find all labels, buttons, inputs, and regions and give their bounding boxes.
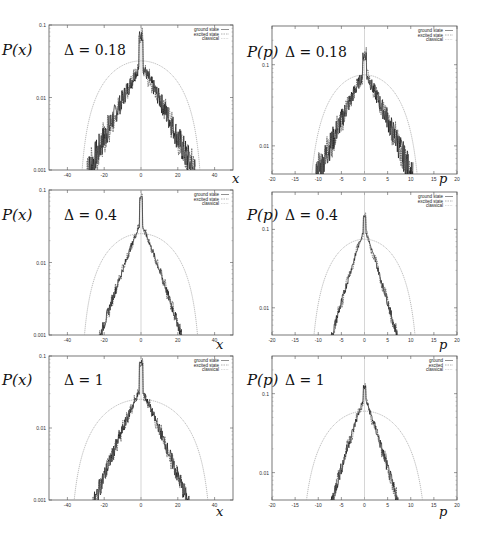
y-tick-label: 0.01 — [259, 470, 269, 476]
figure: -40-20020400.0010.010.1P(x)Δ = 0.18xgrou… — [0, 0, 480, 539]
legend-label: classical — [426, 367, 443, 372]
legend-label: classical — [202, 201, 219, 206]
x-tick-label: -5 — [339, 502, 344, 508]
x-tick-label: 10 — [408, 337, 414, 343]
x-axis-label: x — [216, 504, 224, 519]
x-tick-label: 20 — [454, 502, 460, 508]
y-tick-label: 0.1 — [39, 353, 46, 359]
y-axis-label: P(p) — [246, 206, 279, 224]
y-axis-label: P(p) — [246, 371, 279, 389]
y-tick-label: 0.01 — [36, 95, 46, 101]
y-tick-label: 0.001 — [33, 332, 46, 338]
delta-annotation: Δ = 0.4 — [285, 207, 338, 223]
y-tick-label: 0.01 — [36, 260, 46, 266]
x-tick-label: 0 — [140, 502, 143, 508]
delta-annotation: Δ = 1 — [285, 372, 325, 388]
legend-label: classical — [202, 36, 219, 41]
y-tick-label: 0.001 — [33, 497, 46, 503]
x-tick-label: -5 — [339, 337, 344, 343]
x-tick-label: -15 — [292, 337, 299, 343]
delta-annotation: Δ = 0.18 — [285, 44, 347, 60]
y-tick-label: 0.1 — [262, 391, 269, 397]
y-tick-label: 0.1 — [262, 226, 269, 232]
x-axis-label: p — [439, 171, 448, 186]
x-tick-label: 20 — [175, 337, 181, 343]
legend-label: classical — [426, 203, 443, 208]
x-tick-label: 20 — [175, 502, 181, 508]
y-tick-label: 0.001 — [33, 167, 46, 173]
delta-annotation: Δ = 0.4 — [64, 207, 117, 223]
y-tick-label: 0.01 — [36, 425, 46, 431]
x-tick-label: -40 — [64, 502, 71, 508]
x-tick-label: 5 — [386, 176, 389, 182]
x-tick-label: 5 — [386, 337, 389, 343]
x-tick-label: -10 — [315, 502, 322, 508]
legend-label: classical — [426, 37, 443, 42]
x-tick-label: 15 — [431, 337, 437, 343]
x-axis-label: x — [232, 171, 240, 186]
x-axis-label: p — [439, 337, 448, 352]
x-tick-label: -20 — [268, 176, 275, 182]
x-axis-label: p — [439, 504, 448, 519]
x-tick-label: 0 — [140, 337, 143, 343]
x-tick-label: 0 — [363, 502, 366, 508]
x-tick-label: 15 — [431, 176, 437, 182]
delta-annotation: Δ = 0.18 — [64, 42, 126, 58]
x-tick-label: -40 — [64, 172, 71, 178]
x-tick-label: 0 — [363, 176, 366, 182]
x-tick-label: -20 — [101, 337, 108, 343]
panel-x-0.18: -40-20020400.0010.010.1P(x)Δ = 0.18xgrou… — [1, 22, 240, 193]
x-tick-label: -15 — [292, 176, 299, 182]
panel-x-1: -40-20020400.0010.010.1P(x)Δ = 1xground … — [1, 353, 233, 522]
x-tick-label: -15 — [292, 502, 299, 508]
x-tick-label: 40 — [212, 172, 218, 178]
panel-p-0.4: -20-15-10-5051015200.010.1P(p)Δ = 0.4pgr… — [246, 192, 460, 359]
x-tick-label: -5 — [339, 176, 344, 182]
panel-p-0.18: -20-15-10-5051015200.010.1P(p)Δ = 0.18pg… — [246, 26, 460, 198]
y-tick-label: 0.1 — [39, 187, 46, 193]
x-tick-label: 0 — [363, 337, 366, 343]
y-tick-label: 0.01 — [259, 305, 269, 311]
x-tick-label: -10 — [315, 337, 322, 343]
y-tick-label: 0.1 — [262, 62, 269, 68]
panel-p-1: -20-15-10-5051015200.010.1P(p)Δ = 1pgrou… — [246, 356, 460, 524]
y-axis-label: P(x) — [1, 371, 32, 389]
panel-x-0.4: -40-20020400.0010.010.1P(x)Δ = 0.4xgroun… — [1, 187, 233, 357]
x-tick-label: 0 — [140, 172, 143, 178]
delta-annotation: Δ = 1 — [64, 372, 104, 388]
y-tick-label: 0.01 — [259, 143, 269, 149]
legend-label: classical — [202, 367, 219, 372]
x-axis-label: x — [216, 337, 224, 352]
x-tick-label: -20 — [101, 502, 108, 508]
y-axis-label: P(x) — [1, 206, 32, 224]
x-tick-label: -40 — [64, 337, 71, 343]
x-tick-label: 15 — [431, 502, 437, 508]
x-tick-label: 20 — [454, 176, 460, 182]
x-tick-label: 10 — [408, 176, 414, 182]
x-tick-label: 5 — [386, 502, 389, 508]
y-axis-label: P(x) — [1, 41, 32, 59]
x-tick-label: -10 — [315, 176, 322, 182]
x-tick-label: -20 — [268, 502, 275, 508]
x-tick-label: 20 — [175, 172, 181, 178]
x-tick-label: -20 — [268, 337, 275, 343]
y-axis-label: P(p) — [246, 43, 279, 61]
x-tick-label: 20 — [454, 337, 460, 343]
x-tick-label: -20 — [101, 172, 108, 178]
x-tick-label: 10 — [408, 502, 414, 508]
y-tick-label: 0.1 — [39, 22, 46, 28]
